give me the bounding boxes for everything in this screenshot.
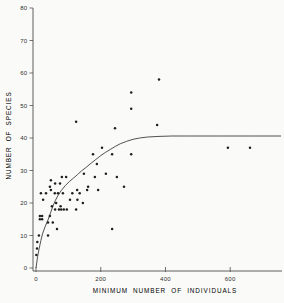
data-point <box>71 192 74 195</box>
data-point <box>40 192 43 195</box>
data-point <box>86 189 89 192</box>
data-point <box>61 176 64 179</box>
x-tick-label: 0 <box>34 276 38 282</box>
data-point <box>52 221 55 224</box>
data-point <box>62 192 65 195</box>
data-point <box>54 192 57 195</box>
y-tick-label: 80 <box>20 5 28 11</box>
data-point <box>130 108 133 111</box>
scatter-plot-figure: 010203040506070800200400600 NUMBER OF SP… <box>0 0 284 303</box>
data-point <box>36 247 39 250</box>
data-point <box>56 228 59 231</box>
data-point <box>111 228 114 231</box>
data-point <box>101 147 104 150</box>
data-point <box>76 189 79 192</box>
data-point <box>94 176 97 179</box>
data-point <box>60 208 63 211</box>
data-point <box>69 199 72 202</box>
data-point <box>227 147 230 150</box>
data-point <box>51 205 54 208</box>
data-point <box>35 254 38 257</box>
data-point <box>58 208 61 211</box>
data-point <box>97 189 100 192</box>
data-point <box>249 147 252 150</box>
y-tick-label: 60 <box>20 70 28 76</box>
data-point <box>78 192 81 195</box>
chart-canvas: 010203040506070800200400600 <box>0 0 284 303</box>
fitted-curve <box>36 136 281 268</box>
data-point <box>36 241 39 244</box>
x-tick-label: 200 <box>95 276 106 282</box>
data-point <box>49 215 52 218</box>
data-point <box>55 202 58 205</box>
data-point <box>96 163 99 166</box>
data-point <box>92 153 95 156</box>
data-point <box>76 199 79 202</box>
data-point <box>156 124 159 127</box>
y-tick-label: 0 <box>24 265 28 271</box>
data-point <box>123 186 126 189</box>
data-point <box>65 176 68 179</box>
data-point <box>41 218 44 221</box>
data-point <box>66 208 69 211</box>
data-point <box>47 234 50 237</box>
data-point <box>49 186 52 189</box>
y-tick-label: 70 <box>20 38 28 44</box>
data-point <box>130 91 133 94</box>
data-point <box>42 199 45 202</box>
data-point <box>38 234 41 237</box>
data-point <box>111 153 114 156</box>
data-point <box>59 205 62 208</box>
data-point <box>130 153 133 156</box>
data-point <box>41 215 44 218</box>
y-axis-title: NUMBER OF SPECIES <box>5 16 12 256</box>
data-point <box>39 215 42 218</box>
data-point <box>83 173 86 176</box>
y-tick-label: 30 <box>20 168 28 174</box>
data-point <box>59 182 62 185</box>
data-point <box>45 192 48 195</box>
data-point <box>50 189 53 192</box>
data-point <box>82 202 85 205</box>
data-point <box>87 186 90 189</box>
y-tick-label: 10 <box>20 233 28 239</box>
data-point <box>50 179 53 182</box>
data-point <box>47 221 50 224</box>
x-tick-label: 400 <box>160 276 171 282</box>
data-point <box>54 182 57 185</box>
y-tick-label: 20 <box>20 200 28 206</box>
data-point <box>39 218 42 221</box>
data-point <box>54 208 57 211</box>
data-point <box>75 121 78 124</box>
data-point <box>57 192 60 195</box>
y-tick-label: 40 <box>20 135 28 141</box>
y-tick-label: 50 <box>20 103 28 109</box>
data-point <box>116 176 119 179</box>
data-point <box>158 78 161 81</box>
x-tick-label: 600 <box>225 276 236 282</box>
data-point <box>114 127 117 130</box>
data-point <box>105 173 108 176</box>
data-point <box>63 208 66 211</box>
data-point <box>75 208 78 211</box>
x-axis-title: MINIMUM NUMBER OF INDIVIDUALS <box>40 287 284 294</box>
